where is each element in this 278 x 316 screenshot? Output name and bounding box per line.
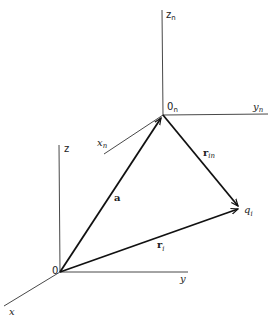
- point-qi-label: qi: [244, 204, 253, 218]
- vector-rin: [163, 115, 238, 206]
- vector-a-label: a: [114, 192, 121, 203]
- vector-ri-label: ri: [157, 239, 165, 253]
- global-frame: [4, 145, 188, 306]
- local-y-axis: [163, 114, 268, 115]
- vector-a: [60, 118, 161, 272]
- local-z-label: zn: [166, 9, 176, 22]
- global-origin-label: 0: [52, 265, 58, 276]
- global-x-axis: [4, 272, 60, 306]
- coordinate-frames-diagram: z zn 0n yn xn rin a qi ri 0 y x: [0, 0, 278, 316]
- local-origin-label: 0n: [167, 101, 178, 114]
- global-z-label: z: [64, 143, 69, 154]
- vectors: [60, 115, 238, 272]
- local-z-axis: [162, 10, 163, 115]
- local-frame: [104, 10, 268, 154]
- vector-rin-label: rin: [203, 147, 216, 160]
- local-x-label: xn: [97, 137, 108, 150]
- global-x-label: x: [9, 306, 15, 316]
- local-x-axis: [104, 115, 163, 154]
- local-y-label: yn: [252, 101, 264, 114]
- vector-ri: [60, 209, 238, 272]
- global-y-label: y: [179, 273, 186, 284]
- global-z-axis: [59, 145, 60, 272]
